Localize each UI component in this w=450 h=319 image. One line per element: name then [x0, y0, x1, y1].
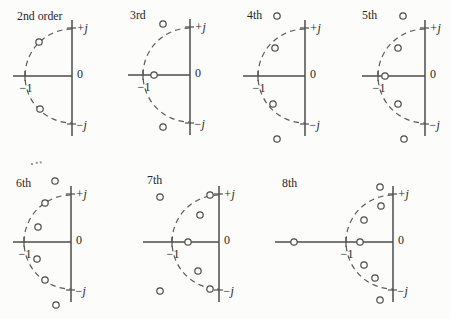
diagram-8th: 8th+j0−j−1	[275, 176, 410, 303]
pole-marker	[36, 39, 42, 45]
order-label: 8th	[282, 176, 297, 190]
plus-j-label: +j	[195, 20, 207, 34]
pole-marker	[270, 101, 276, 107]
minus-one-label: −1	[167, 247, 180, 261]
pole-marker	[401, 136, 407, 142]
order-label: 7th	[147, 173, 162, 187]
pole-marker	[357, 239, 363, 245]
pole-marker	[207, 286, 213, 292]
order-label: 3rd	[130, 8, 146, 22]
pole-marker	[400, 13, 406, 19]
pole-marker	[52, 178, 58, 184]
pole-marker	[377, 297, 383, 303]
order-label: 4th	[247, 8, 262, 22]
pole-marker	[42, 200, 48, 206]
pole-marker	[151, 72, 157, 78]
minus-one-label: −1	[20, 81, 33, 95]
diagram-4th: 4th+j0−j−1	[243, 8, 322, 142]
pole-marker	[291, 239, 297, 245]
pole-marker	[195, 268, 201, 274]
pole-marker	[274, 13, 280, 19]
pole-marker	[53, 302, 59, 308]
pole-marker	[157, 288, 163, 294]
pole-marker	[35, 224, 41, 230]
order-label: 5th	[362, 8, 377, 22]
diagram-7th: 7th+j0−j−1	[143, 173, 236, 302]
pole-marker	[377, 184, 383, 190]
pole-marker	[382, 73, 388, 79]
pole-marker	[361, 262, 367, 268]
zero-label: 0	[76, 233, 82, 247]
pole-marker	[185, 239, 191, 245]
pole-marker	[274, 136, 280, 142]
diagram-2nd-order: 2nd order+j0−j−1	[13, 9, 89, 136]
plus-j-label: +j	[224, 187, 236, 201]
pole-marker	[37, 106, 43, 112]
minus-j-label: −j	[76, 118, 88, 132]
pole-marker	[378, 203, 384, 209]
minus-j-label: −j	[194, 117, 206, 131]
plus-j-label: +j	[77, 21, 89, 35]
pole-marker	[160, 21, 166, 27]
zero-label: 0	[430, 67, 436, 81]
pole-marker	[361, 217, 367, 223]
plus-j-label: +j	[76, 187, 88, 201]
pole-marker	[160, 124, 166, 130]
pole-zero-figure-svg: 2nd order+j0−j−13rd+j0−j−14th+j0−j−15th+…	[0, 0, 450, 319]
diagram-6th: 6th+j0−j−1	[13, 176, 88, 308]
minus-one-label: −1	[19, 247, 32, 261]
pole-marker	[272, 45, 278, 51]
plus-j-label: +j	[310, 21, 322, 35]
pole-marker	[207, 192, 213, 198]
minus-one-label: −1	[138, 80, 151, 94]
pole-marker	[197, 212, 203, 218]
minus-one-label: −1	[253, 81, 266, 95]
plus-j-label: +j	[398, 187, 410, 201]
pole-marker	[395, 101, 401, 107]
minus-j-label: −j	[429, 118, 441, 132]
minus-j-label: −j	[223, 284, 235, 298]
zero-label: 0	[77, 67, 83, 81]
pole-marker	[42, 277, 48, 283]
diagram-5th: 5th+j0−j−1	[362, 8, 442, 142]
order-label: 2nd order	[17, 9, 63, 23]
diagram-3rd: 3rd+j0−j−1	[128, 8, 207, 135]
zero-label: 0	[310, 67, 316, 81]
order-label: 6th	[16, 176, 31, 190]
minus-one-label: −1	[341, 247, 354, 261]
minus-j-label: −j	[75, 284, 87, 298]
minus-one-label: −1	[373, 81, 386, 95]
minus-j-label: −j	[309, 118, 321, 132]
zero-label: 0	[224, 233, 230, 247]
minus-j-label: −j	[397, 284, 409, 298]
pole-marker	[372, 275, 378, 281]
pole-marker	[157, 194, 163, 200]
pole-marker	[34, 256, 40, 262]
zero-label: 0	[398, 233, 404, 247]
pole-marker	[395, 45, 401, 51]
plus-j-label: +j	[430, 21, 442, 35]
butterworth-pole-diagrams-figure: 2nd order+j0−j−13rd+j0−j−14th+j0−j−15th+…	[0, 0, 450, 319]
zero-label: 0	[195, 66, 201, 80]
